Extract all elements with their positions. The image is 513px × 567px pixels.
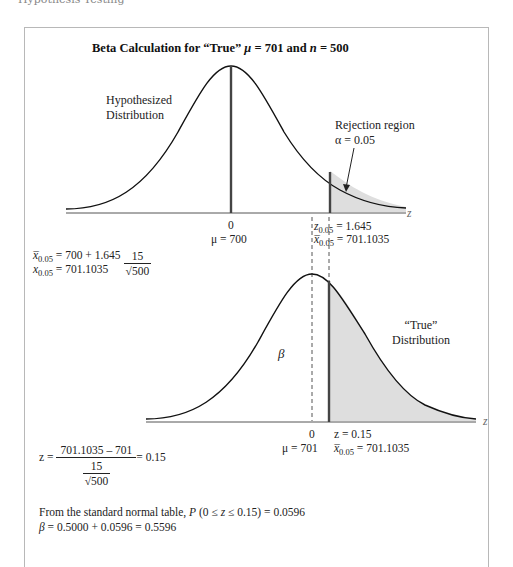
- lower-tick-zero: 0: [309, 427, 315, 441]
- lower-x-crit-sub: 0.05: [339, 447, 354, 457]
- hypothesized-line2: Distribution: [106, 108, 172, 123]
- x-crit-sub: 0.05: [319, 238, 334, 248]
- beta-region-label: β: [278, 347, 284, 361]
- z-crit-value: = 1.645: [333, 220, 371, 232]
- conclusion-expr: (0 ≤: [196, 506, 221, 518]
- true-distribution-label: “True”Distribution: [392, 318, 450, 348]
- true-line2: Distribution: [392, 333, 450, 348]
- lower-x-critical-label: x̅0.05 = 701.1035: [334, 441, 409, 455]
- lower-beta-complement-shading: [329, 282, 476, 421]
- calc1-rhs1: = 700 + 1.645: [53, 249, 121, 261]
- upper-tick-zero: 0: [228, 218, 234, 232]
- calc1-sub2: 0.05: [38, 268, 53, 278]
- hypothesized-distribution-label: HypothesizedDistribution: [106, 93, 172, 123]
- conclusion-line1: From the standard normal table, P (0 ≤ z…: [39, 505, 305, 519]
- rejection-region-label: Rejection regionα = 0.05: [335, 118, 415, 148]
- rejection-arrow-shaft: [346, 148, 354, 188]
- calc1-frac-den: √500: [124, 264, 152, 278]
- calc2-inner-den: √500: [83, 474, 111, 488]
- conclusion-line2: β = 0.5000 + 0.0596 = 0.5596: [39, 520, 176, 534]
- calc1-fraction: 15√500: [124, 249, 152, 278]
- lower-tick-mu: μ = 701: [282, 441, 318, 455]
- calc1-frac-num: 15: [124, 249, 152, 264]
- calc1-rhs2: = 701.1035: [53, 263, 108, 275]
- calc2-rhs: = 0.15: [136, 450, 166, 464]
- calc2-fraction: 701.1035 – 701 15√500: [56, 443, 136, 488]
- lower-axis-z-label: z: [483, 414, 487, 428]
- conclusion-beta-value: = 0.5000 + 0.0596 = 0.5596: [45, 521, 177, 533]
- x-crit-value: = 701.1035: [334, 233, 389, 245]
- z-score-calculation: z = 701.1035 – 701 15√500 = 0.15: [39, 443, 166, 488]
- x-critical-label: x̅0.05 = 701.1035: [314, 232, 389, 246]
- upper-tick-mu: μ = 700: [211, 232, 247, 246]
- calc2-denominator: 15√500: [56, 458, 136, 488]
- hypothesized-line1: Hypothesized: [106, 93, 172, 108]
- true-line1: “True”: [392, 318, 450, 333]
- z-critical-label: z0.05 = 1.645: [314, 219, 371, 233]
- calc2-inner-num: 15: [83, 459, 111, 474]
- critical-value-calculation: x̅0.05 = 700 + 1.645 x0.05 = 701.1035 15…: [33, 248, 151, 278]
- rejection-line1: Rejection region: [335, 118, 415, 133]
- calc2-lhs: z =: [39, 450, 53, 464]
- conclusion-rest: ≤ 0.15) = 0.0596: [225, 506, 305, 518]
- upper-axis-z-label: z: [407, 206, 411, 220]
- lower-x-crit-value: = 701.1035: [354, 442, 409, 454]
- rejection-alpha: α = 0.05: [335, 133, 415, 148]
- lower-z-value: z = 0.15: [334, 427, 371, 441]
- calc2-inner-fraction: 15√500: [83, 459, 111, 488]
- calc2-numerator: 701.1035 – 701: [56, 443, 136, 458]
- conclusion-prefix: From the standard normal table,: [39, 506, 189, 518]
